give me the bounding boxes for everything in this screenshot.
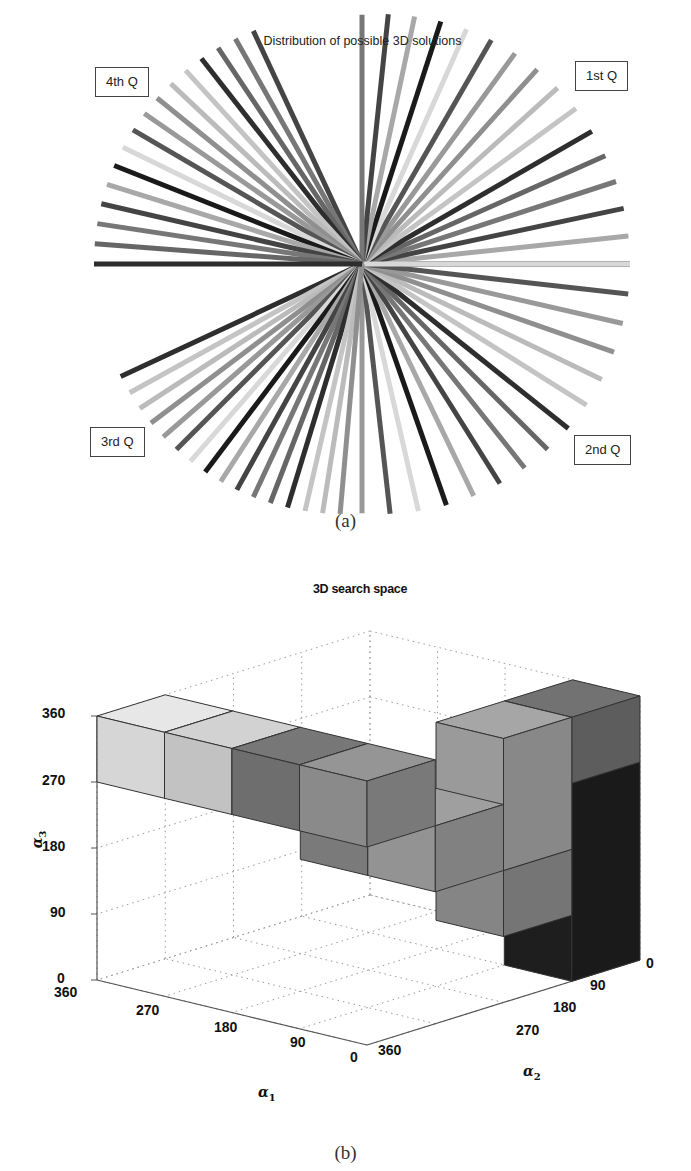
label-3rd-quadrant: 3rd Q: [90, 427, 145, 457]
cube-side-face: [504, 717, 572, 870]
y-tick-90: 90: [590, 978, 606, 992]
solution-line: [133, 130, 362, 264]
caption-a: (a): [0, 510, 691, 532]
z-tick-0: 0: [57, 971, 65, 985]
x-tick-180: 180: [214, 1020, 237, 1034]
caption-b: (b): [0, 1142, 691, 1164]
grid-line: [234, 938, 504, 1003]
panel-a: Distribution of possible 3D solutions 4t…: [0, 0, 691, 520]
grid-line: [165, 911, 438, 996]
solution-line: [163, 264, 362, 437]
x-tick-0: 0: [350, 1050, 358, 1064]
3d-bar-plot: [0, 560, 691, 1171]
y-tick-360: 360: [378, 1043, 401, 1057]
label-2nd-quadrant: 2nd Q: [574, 435, 631, 465]
x-axis-label: α1: [258, 1084, 276, 1103]
cube-side-face: [572, 762, 640, 981]
z-tick-360: 360: [42, 706, 65, 720]
x-tick-360: 360: [54, 985, 77, 999]
z-axis-label: α3: [29, 831, 48, 849]
y-tick-270: 270: [516, 1023, 539, 1037]
x-tick-90: 90: [290, 1035, 306, 1049]
z-tick-270: 270: [42, 773, 65, 787]
chart-title-a: Distribution of possible 3D solutions: [0, 34, 691, 48]
label-4th-quadrant: 4th Q: [95, 67, 149, 97]
y-tick-0: 0: [646, 956, 654, 970]
y-axis-label: α2: [523, 1063, 541, 1082]
y-tick-180: 180: [553, 1000, 576, 1014]
solution-line: [362, 264, 548, 450]
z-tick-90: 90: [50, 905, 66, 919]
x-tick-270: 270: [136, 1003, 159, 1017]
chart-title-b: 3D search space: [0, 582, 691, 596]
grid-line: [165, 959, 435, 1024]
panel-b: 3D search space 0 90 180 270 360 α3 360 …: [0, 560, 691, 1171]
label-1st-quadrant: 1st Q: [575, 61, 628, 91]
